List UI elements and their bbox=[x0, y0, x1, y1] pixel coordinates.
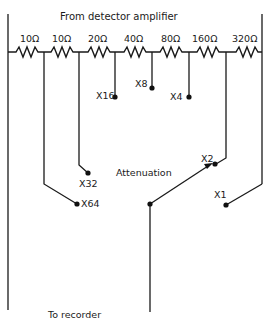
tap-wire-x2 bbox=[216, 52, 226, 164]
x1-lead-wire bbox=[226, 184, 262, 205]
resistor-label-7: 320Ω bbox=[232, 33, 257, 44]
resistor-3 bbox=[79, 47, 115, 57]
tap-label-x1: X1 bbox=[214, 189, 227, 200]
tap-label-x64: X64 bbox=[81, 198, 100, 209]
attenuator-circuit-diagram: From detector amplifier 10Ω 10Ω 20Ω 40Ω … bbox=[0, 0, 272, 324]
tap-labels: X64 X32 X16 X8 X4 X2 X1 bbox=[79, 78, 227, 209]
resistor-2 bbox=[44, 47, 79, 57]
resistor-label-4: 40Ω bbox=[124, 33, 143, 44]
tap-label-x16: X16 bbox=[96, 90, 115, 101]
contact-x32[interactable] bbox=[85, 170, 90, 175]
input-label: From detector amplifier bbox=[60, 11, 179, 22]
tap-wires bbox=[44, 52, 226, 204]
tap-wire-x32 bbox=[79, 52, 88, 173]
resistor-4 bbox=[115, 47, 152, 57]
resistor-5 bbox=[152, 47, 189, 57]
resistor-6 bbox=[189, 47, 226, 57]
wiper-pivot bbox=[147, 201, 152, 206]
resistor-label-2: 10Ω bbox=[52, 33, 71, 44]
resistor-chain bbox=[8, 47, 262, 57]
tap-contacts bbox=[74, 85, 228, 207]
resistor-labels: 10Ω 10Ω 20Ω 40Ω 80Ω 160Ω 320Ω bbox=[20, 33, 257, 44]
resistor-label-6: 160Ω bbox=[192, 33, 217, 44]
resistor-7 bbox=[226, 47, 262, 57]
tap-label-x32: X32 bbox=[79, 178, 98, 189]
tap-label-x2: X2 bbox=[201, 153, 214, 164]
tap-label-x4: X4 bbox=[170, 91, 183, 102]
contact-x1[interactable] bbox=[223, 202, 228, 207]
output-label: To recorder bbox=[47, 309, 101, 320]
resistor-1 bbox=[8, 47, 44, 57]
resistor-label-5: 80Ω bbox=[161, 33, 180, 44]
selector-wiper[interactable] bbox=[147, 163, 213, 312]
contact-x4[interactable] bbox=[186, 94, 191, 99]
contact-x8[interactable] bbox=[149, 85, 154, 90]
resistor-label-1: 10Ω bbox=[20, 33, 39, 44]
resistor-label-3: 20Ω bbox=[88, 33, 107, 44]
attenuation-label: Attenuation bbox=[116, 167, 172, 178]
tap-wire-x64 bbox=[44, 52, 77, 204]
tap-label-x8: X8 bbox=[135, 78, 148, 89]
contact-x64[interactable] bbox=[74, 201, 79, 206]
